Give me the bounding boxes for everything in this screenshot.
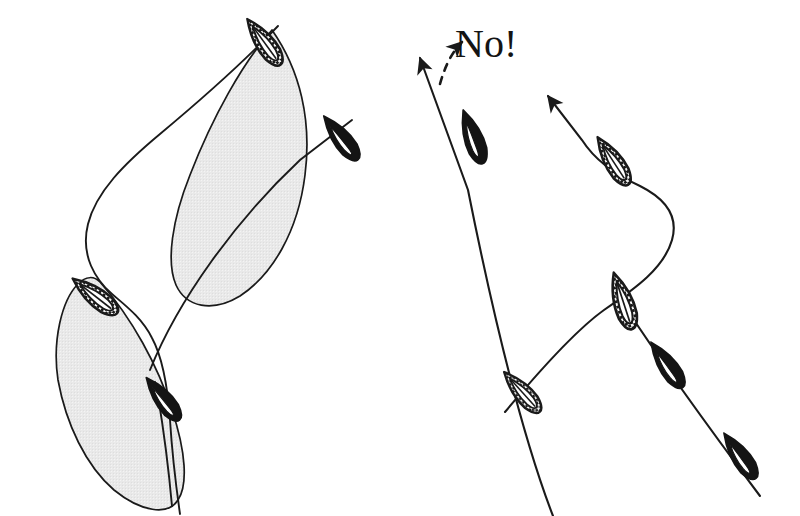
boat-right-checkered-upper — [590, 132, 636, 189]
right-panel — [420, 42, 763, 516]
boat-right-checkered-center — [605, 270, 642, 332]
sailing-diagram-svg — [0, 0, 800, 516]
no-annotation-label: No! — [455, 24, 517, 64]
boat-right-black-mid — [644, 337, 690, 392]
boat-right-black-upper — [455, 107, 492, 166]
boat-right-black-lower — [717, 428, 763, 483]
figure-root: No! — [0, 0, 800, 516]
shaded-zone-upper — [171, 30, 307, 306]
track-checkered-right — [505, 96, 674, 412]
left-panel — [56, 14, 365, 514]
track-black-right — [420, 58, 553, 516]
boat-left-black-right — [317, 111, 365, 165]
